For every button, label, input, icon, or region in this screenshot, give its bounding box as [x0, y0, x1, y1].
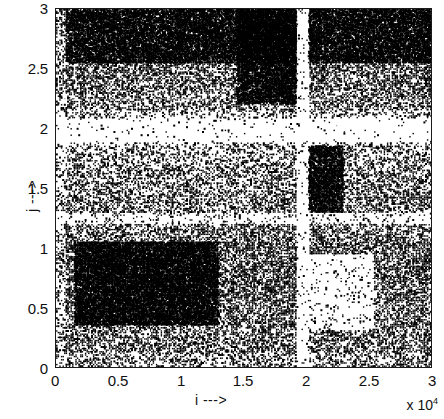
- x-tick-label: 1.5: [218, 372, 268, 389]
- y-axis-label: j --->: [24, 166, 40, 226]
- y-tick-label: 2.5: [4, 60, 48, 77]
- x-tick-label: 2.5: [344, 372, 394, 389]
- y-tick-label: 2: [4, 120, 48, 137]
- sparsity-scatter-canvas: [56, 9, 431, 367]
- x-tick-label: 0.5: [93, 372, 143, 389]
- y-tick-label: 3: [4, 0, 48, 17]
- x-axis-label: i --->: [0, 392, 444, 408]
- x-axis-exponent-base: x 10: [407, 397, 433, 413]
- x-tick-label: 3: [407, 372, 444, 389]
- x-tick-label: 2: [281, 372, 331, 389]
- plot-area: [55, 8, 432, 368]
- x-tick-label: 0: [30, 372, 80, 389]
- x-axis-label-text: i --->: [195, 392, 227, 408]
- x-axis-exponent-label: x 104: [407, 396, 438, 413]
- y-axis-label-text: j --->: [24, 180, 40, 212]
- x-axis-exponent-power: 4: [433, 396, 438, 406]
- y-tick-label: 1: [4, 240, 48, 257]
- x-tick-label: 1: [156, 372, 206, 389]
- y-tick-label: 0.5: [4, 300, 48, 317]
- sparsity-plot-figure: 3 2.5 2 1.5 1 0.5 0 0 0.5 1 1.5 2 2.5 3 …: [0, 0, 444, 419]
